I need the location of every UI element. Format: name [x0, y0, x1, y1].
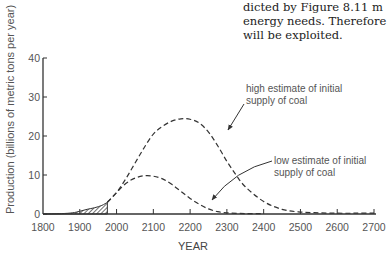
- x-axis-label: YEAR: [178, 240, 208, 252]
- high-estimate-label: high estimate of initialsupply of coal: [246, 83, 342, 106]
- x-tick-label: 2000: [105, 221, 129, 233]
- y-axis-label: Production (billions of metric tons per …: [4, 5, 16, 214]
- x-tick-label: 2100: [142, 221, 166, 233]
- x-tick-label: 2300: [215, 221, 239, 233]
- high-estimate-arrow: [228, 104, 244, 130]
- label-line: supply of coal: [246, 95, 307, 106]
- x-tick-label: 2500: [289, 221, 313, 233]
- y-tick-label: 20: [28, 130, 40, 142]
- x-tick-label: 2600: [326, 221, 350, 233]
- x-tick-label: 2400: [252, 221, 276, 233]
- annotations: high estimate of initialsupply of coallo…: [212, 83, 366, 200]
- ticks: 0102030401800190020002100220023002400250…: [28, 52, 386, 233]
- low-estimate-line: [107, 176, 263, 214]
- axes: [43, 58, 376, 214]
- coal-production-chart: Production (billions of metric tons per …: [0, 0, 389, 263]
- y-tick-label: 0: [34, 208, 40, 220]
- y-tick-label: 30: [28, 91, 40, 103]
- low-estimate-label: low estimate of initialsupply of coal: [274, 155, 366, 178]
- label-line: low estimate of initial: [274, 155, 366, 166]
- label-line: supply of coal: [274, 167, 335, 178]
- historical-production-area: [43, 202, 107, 214]
- historical-hatched-area: [43, 202, 107, 214]
- low-estimate-arrow: [212, 161, 272, 200]
- x-tick-label: 2200: [178, 221, 202, 233]
- label-line: high estimate of initial: [246, 83, 342, 94]
- x-tick-label: 1900: [68, 221, 92, 233]
- y-tick-label: 40: [28, 52, 40, 64]
- y-tick-label: 10: [28, 169, 40, 181]
- x-tick-label: 2700: [362, 221, 386, 233]
- x-tick-label: 1800: [31, 221, 55, 233]
